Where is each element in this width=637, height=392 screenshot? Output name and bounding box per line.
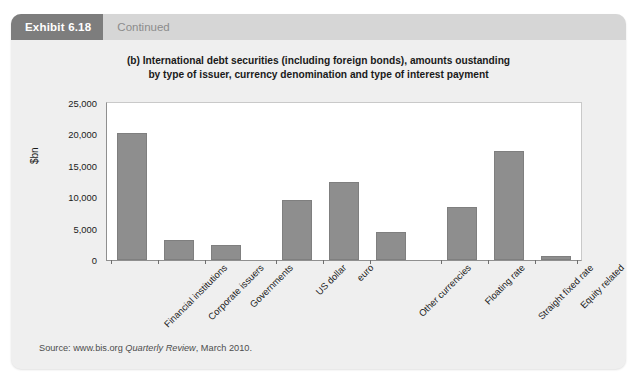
y-tick-label: 25,000 — [68, 98, 97, 109]
source-publication: Quarterly Review — [125, 343, 195, 353]
source-suffix: , March 2010. — [196, 343, 252, 353]
bar-financial-institutions — [117, 133, 147, 260]
exhibit-continued-label: Continued — [103, 14, 169, 40]
bar-corporate-issuers — [164, 240, 194, 260]
source-note: Source: www.bis.org Quarterly Review, Ma… — [39, 343, 252, 353]
y-tick-label: 15,000 — [68, 160, 97, 171]
y-tick-label: 20,000 — [68, 129, 97, 140]
bars-container — [107, 103, 581, 260]
exhibit-number-tag: Exhibit 6.18 — [11, 14, 103, 40]
bar-governments — [211, 245, 241, 260]
bar-floating-rate — [447, 207, 477, 260]
x-tick-label: euro — [354, 262, 375, 283]
bar-straight-fixed-rate — [494, 151, 524, 260]
y-axis-title: $bn — [29, 147, 40, 164]
x-tick-label: US dollar — [313, 262, 348, 297]
chart-title: (b) International debt securities (inclu… — [11, 54, 626, 82]
x-tick-label: Financial institutions — [162, 262, 229, 329]
plot-area — [106, 102, 582, 261]
exhibit-header: Exhibit 6.18 Continued — [11, 14, 626, 40]
y-tick-label: 10,000 — [68, 192, 97, 203]
y-tick-label: 0 — [92, 255, 97, 266]
x-tick-label: Floating rate — [482, 262, 527, 307]
x-tick-label: Straight fixed rate — [536, 262, 596, 322]
bar-equity-related — [541, 256, 571, 260]
chart-title-line-2: by type of issuer, currency denomination… — [11, 68, 626, 82]
x-axis-tick-labels: Financial institutionsCorporate issuersG… — [106, 262, 580, 352]
source-prefix: Source: www.bis.org — [39, 343, 125, 353]
y-tick-label: 5,000 — [74, 223, 97, 234]
bar-euro — [329, 182, 359, 261]
bar-other-currencies — [376, 232, 406, 260]
exhibit-panel: Exhibit 6.18 Continued (b) International… — [11, 14, 626, 369]
x-tick-label: Other currencies — [416, 262, 473, 319]
chart-title-line-1: (b) International debt securities (inclu… — [11, 54, 626, 68]
bar-us-dollar — [282, 200, 312, 260]
y-axis-tick-labels: 05,00010,00015,00020,00025,000 — [49, 102, 103, 261]
